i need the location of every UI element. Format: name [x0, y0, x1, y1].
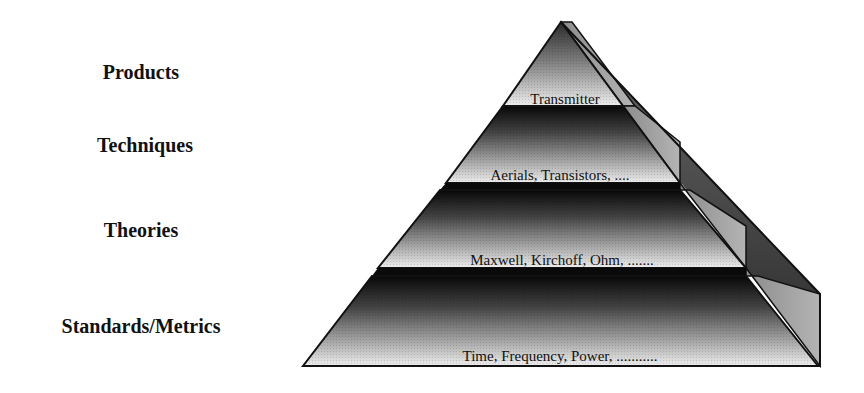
tier-techniques-content: Aerials, Transistors, ....: [490, 167, 629, 183]
tier-products-content: Transmitter: [530, 91, 599, 107]
tier-standards-metrics-content: Time, Frequency, Power, ...........: [463, 348, 658, 364]
tier-theories: Maxwell, Kirchoff, Ohm, .......: [378, 183, 746, 268]
tier-products: Transmitter: [503, 22, 635, 107]
tier-techniques: Aerials, Transistors, ....: [446, 106, 680, 183]
pyramid-diagram: Transmitter Aerials, Transistors, .... M…: [0, 0, 864, 393]
tier-theories-content: Maxwell, Kirchoff, Ohm, .......: [470, 252, 653, 268]
tier-standards-metrics: Time, Frequency, Power, ...........: [303, 268, 820, 366]
